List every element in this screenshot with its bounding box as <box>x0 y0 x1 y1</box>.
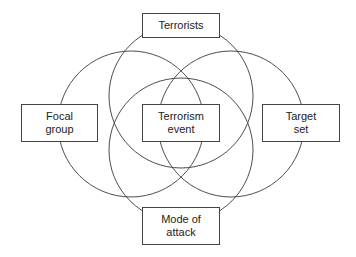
terrorism-event-label-line1: Terrorism <box>158 110 204 123</box>
terrorism-event-label-line2: event <box>168 123 195 136</box>
mode-of-attack-circle <box>109 78 253 222</box>
target-set-box: Target set <box>262 104 340 142</box>
target-set-label-line1: Target <box>286 110 317 123</box>
mode-of-attack-label-line1: Mode of <box>161 213 201 226</box>
terrorists-circle <box>109 24 253 168</box>
focal-group-label-line2: group <box>45 123 73 136</box>
focal-group-box: Focal group <box>21 104 98 142</box>
mode-of-attack-box: Mode of attack <box>142 207 220 245</box>
terrorists-box: Terrorists <box>142 13 220 38</box>
terrorists-label: Terrorists <box>158 19 203 32</box>
target-set-label-line2: set <box>294 123 309 136</box>
mode-of-attack-label-line2: attack <box>166 226 195 239</box>
focal-group-label-line1: Focal <box>46 110 73 123</box>
terrorism-event-box: Terrorism event <box>142 104 220 142</box>
